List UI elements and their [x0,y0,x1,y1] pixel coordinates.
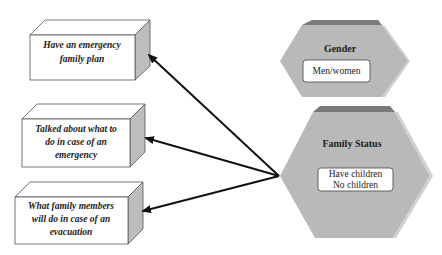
arrow-to-outcome-3 [143,176,279,211]
outcome-2-line-2: do in case of an [45,137,107,147]
gender-title: Gender [324,43,357,54]
outcome-2-line-3: emergency [55,150,98,160]
factor-hexagon-gender: Gender Men/women [280,20,410,97]
outcome-3-line-3: evacuation [50,227,93,237]
outcome-1-line-2: family plan [60,54,105,64]
outcome-2-line-1: Talked about what to [35,124,117,134]
outcome-box-evacuation: What family members will do in case of a… [15,182,143,244]
outcome-box-talked-about: Talked about what to do in case of an em… [22,104,145,167]
diagram-canvas: Have an emergency family plan Talked abo… [0,0,442,255]
family-status-title: Family Status [322,138,381,149]
outcome-3-line-1: What family members [28,201,114,211]
outcome-1-line-1: Have an emergency [42,40,121,50]
family-status-value-1: Have children [329,169,383,179]
factor-hexagon-family-status: Family Status Have children No children [280,106,433,238]
outcome-3-line-2: will do in case of an [32,214,110,224]
arrows [143,55,279,211]
gender-value-1: Men/women [312,66,360,76]
family-status-value-2: No children [333,180,378,190]
outcome-box-emergency-plan: Have an emergency family plan [30,20,150,80]
